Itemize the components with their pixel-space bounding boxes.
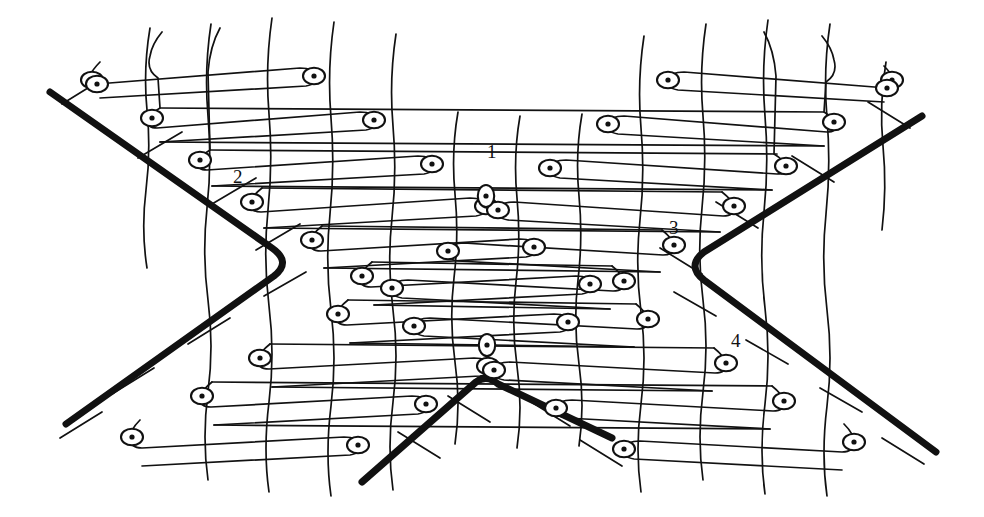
mesh-diagram-svg <box>0 0 984 517</box>
figure-canvas: 1 2 3 4 <box>0 0 984 517</box>
callout-label-2: 2 <box>233 167 243 186</box>
callout-label-3: 3 <box>669 218 679 237</box>
callout-label-4: 4 <box>731 331 741 350</box>
callout-label-1: 1 <box>487 142 497 161</box>
